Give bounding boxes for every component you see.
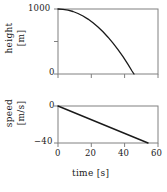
height-plot-frame bbox=[58, 9, 158, 74]
plot-canvas bbox=[0, 0, 167, 192]
figure-container: height [m] speed [m/s] 1000 0 0 −40 0 20… bbox=[0, 0, 167, 192]
speed-curve bbox=[58, 106, 148, 143]
height-curve bbox=[58, 9, 134, 74]
